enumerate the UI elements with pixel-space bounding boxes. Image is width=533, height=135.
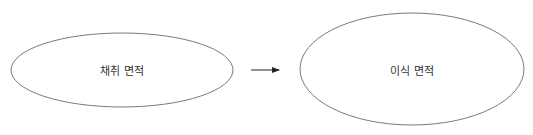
harvest-area-label: 채취 면적 (100, 62, 144, 78)
diagram-canvas (0, 0, 533, 135)
transplant-area-label: 이식 면적 (390, 62, 434, 78)
